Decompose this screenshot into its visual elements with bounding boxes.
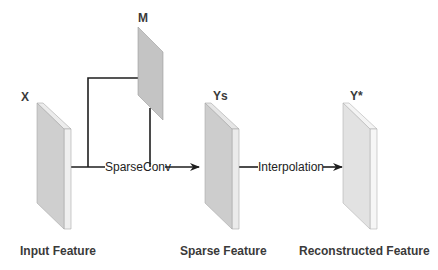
reconstructed-symbol: Y* [350,89,363,103]
input-symbol: X [21,90,29,104]
mask-plane [138,27,163,120]
input-feature-side-face [64,129,71,229]
mask-symbol: M [138,11,148,25]
mask-to-sparseconv-left-line [88,78,138,167]
reconstructed-feature-block [343,103,377,229]
sparseconv-label: SparseConv [105,160,171,174]
reconstructed-feature-side-face [370,129,377,229]
sparse-feature-block [205,103,239,229]
reconstructed-feature-caption: Reconstructed Feature [299,244,430,258]
interpolation-label: Interpolation [258,160,324,174]
input-feature-caption: Input Feature [20,244,96,258]
diagram-canvas: X M Ys Y* SparseConv Interpolation Input… [0,0,438,270]
input-feature-block [37,103,71,229]
sparse-feature-side-face [232,129,239,229]
sparse-symbol: Ys [213,89,228,103]
sparse-feature-caption: Sparse Feature [180,244,267,258]
